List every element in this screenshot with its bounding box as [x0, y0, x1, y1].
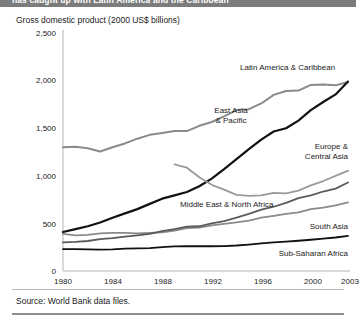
x-tick-1988: 1988 — [143, 277, 183, 286]
series-label-middle-east-north-africa: Middle East & North Africa — [180, 200, 273, 210]
source-note: Source: World Bank data files. — [16, 296, 130, 306]
bottom-divider — [12, 313, 344, 315]
footer-divider — [12, 289, 344, 290]
x-tick-1984: 1984 — [93, 277, 133, 286]
y-tick-500: 500 — [16, 220, 56, 229]
x-tick-1992: 1992 — [193, 277, 233, 286]
y-tick-1500: 1,500 — [16, 124, 56, 133]
series-label-latin-america-caribbean: Latin America & Caribbean — [240, 63, 335, 73]
series-label-east-asia-pacific: East Asia & Pacific — [198, 106, 264, 125]
x-tick-1980: 1980 — [43, 277, 83, 286]
y-tick-2000: 2,000 — [16, 76, 56, 85]
series-label-east-asia-line2: & Pacific — [198, 116, 264, 126]
x-tick-2000: 2000 — [293, 277, 333, 286]
x-tick-1996: 1996 — [243, 277, 283, 286]
series-label-sub-saharan-africa: Sub-Saharan Africa — [238, 249, 348, 259]
y-tick-0: 0 — [16, 267, 56, 276]
y-tick-1000: 1,000 — [16, 172, 56, 181]
series-label-europe-line1: Europe & — [266, 142, 348, 152]
series-label-europe-central-asia: Europe & Central Asia — [266, 142, 348, 161]
series-label-east-asia-line1: East Asia — [198, 106, 264, 116]
series-label-europe-line2: Central Asia — [266, 152, 348, 162]
y-tick-2500: 2,500 — [16, 29, 56, 38]
x-tick-2003: 2003 — [330, 277, 364, 286]
series-label-south-asia: South Asia — [258, 222, 348, 232]
